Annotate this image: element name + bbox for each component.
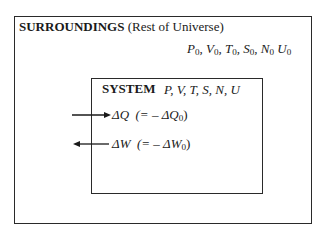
flow-arrows bbox=[0, 0, 322, 231]
work-out-arrow-icon bbox=[73, 141, 109, 147]
heat-in-arrow-icon bbox=[72, 112, 111, 118]
